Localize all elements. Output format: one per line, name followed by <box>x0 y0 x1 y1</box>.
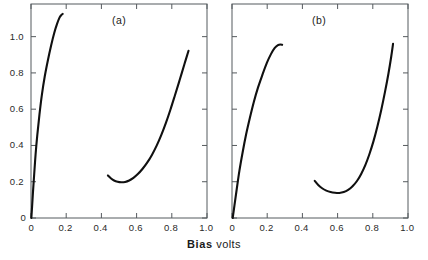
y-tick-label: 0 <box>21 212 27 223</box>
x-tick-label: 0.2 <box>259 222 273 233</box>
x-tick-label: 0.4 <box>295 222 309 233</box>
panel-2 <box>232 4 408 218</box>
curve-reverse-branch <box>315 44 393 193</box>
panel-frame <box>31 4 207 218</box>
x-tick-label: 1.0 <box>400 222 414 233</box>
curve-forward-branch <box>31 14 62 218</box>
panel-tag: (a) <box>112 14 126 26</box>
x-tick-label: 0.8 <box>365 222 379 233</box>
x-tick-label: 0.2 <box>58 222 72 233</box>
x-tick-label: 0.8 <box>164 222 178 233</box>
panel-1 <box>31 4 207 218</box>
figure-container: Current (mA) / Bias volts 00.20.40.60.81… <box>0 0 428 260</box>
y-tick-label: 0.4 <box>10 139 24 150</box>
curve-forward-branch <box>233 44 282 218</box>
x-tick-label: 0 <box>229 222 235 233</box>
x-tick-label: 0.6 <box>129 222 143 233</box>
y-tick-label: 0.2 <box>10 176 24 187</box>
y-tick-label: 0.6 <box>10 103 24 114</box>
panel-tag: (b) <box>312 14 326 26</box>
plot-svg <box>0 0 428 260</box>
x-tick-label: 0.6 <box>330 222 344 233</box>
x-tick-label: 1.0 <box>199 222 213 233</box>
x-tick-label: 0 <box>28 222 34 233</box>
y-tick-label: 0.8 <box>10 67 24 78</box>
curve-reverse-branch <box>108 51 189 182</box>
x-tick-label: 0.4 <box>94 222 108 233</box>
y-tick-label: 1.0 <box>10 31 24 42</box>
